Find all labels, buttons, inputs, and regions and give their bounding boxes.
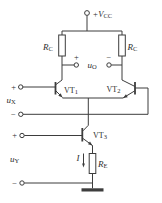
ux-plus-sign: + (11, 82, 16, 92)
resistor-rc-right (119, 35, 126, 56)
uy-label: uY (10, 154, 20, 165)
uy-plus-sign: + (12, 130, 17, 140)
circuit-svg: +VCC RC RC + − uO VT1 VT2 VT3 + uX − + u… (0, 0, 162, 203)
re-label: RE (97, 159, 108, 170)
output-minus-terminal (107, 63, 111, 67)
ux-minus-wire (23, 88, 148, 114)
vcc-terminal (85, 11, 90, 16)
rc-left-label: RC (42, 42, 53, 53)
uy-minus-sign: − (12, 178, 17, 188)
ux-minus-terminal (19, 112, 23, 116)
ux-plus-terminal (19, 85, 23, 89)
vcc-label: +VCC (93, 9, 113, 20)
ground-icon (82, 188, 104, 191)
circuit-diagram: +VCC RC RC + − uO VT1 VT2 VT3 + uX − + u… (0, 0, 162, 203)
ux-minus-sign: − (11, 109, 16, 119)
vt1-label: VT1 (64, 86, 78, 96)
uy-plus-terminal (20, 133, 24, 137)
rc-right-label: RC (127, 42, 138, 53)
vt3-label: VT3 (93, 131, 107, 141)
uo-label: uO (88, 60, 98, 71)
resistor-rc-left (59, 35, 66, 56)
current-label: I (76, 153, 81, 163)
output-plus-terminal (74, 63, 78, 67)
current-arrow-icon (82, 154, 85, 168)
resistor-re (89, 154, 96, 174)
transistor-vt2 (123, 82, 135, 98)
output-minus-sign: − (106, 52, 111, 62)
ux-label: uX (7, 95, 17, 106)
uy-minus-terminal (20, 181, 24, 185)
vt2-label: VT2 (107, 85, 121, 95)
output-plus-sign: + (74, 52, 79, 62)
